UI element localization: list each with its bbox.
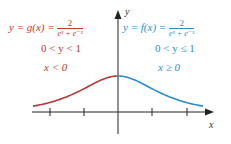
right-fraction-denominator: eˣ + e⁻ˣ — [169, 29, 194, 38]
right-domain: x ≥ 0 — [158, 62, 180, 73]
curve-f — [118, 76, 203, 106]
left-fraction-denominator: eˣ + e⁻ˣ — [57, 29, 82, 38]
left-fraction-numerator: 2 — [57, 19, 82, 29]
left-domain: x < 0 — [44, 62, 67, 73]
right-range: 0 < y ≤ 1 — [155, 43, 195, 54]
curve-g — [33, 76, 118, 106]
chart-root: y = g(x) = 2 eˣ + e⁻ˣ 0 < y < 1 x < 0 y … — [0, 0, 231, 144]
y-axis-arrow-icon — [115, 10, 122, 19]
right-fraction-numerator: 2 — [169, 19, 194, 29]
x-axis-arrow-icon — [205, 109, 214, 116]
right-fraction: 2 eˣ + e⁻ˣ — [169, 19, 194, 38]
left-fraction: 2 eˣ + e⁻ˣ — [57, 19, 82, 38]
left-formula-lhs: y = g(x) = — [9, 21, 55, 33]
left-formula: y = g(x) = 2 eˣ + e⁻ˣ — [9, 19, 83, 38]
x-axis-label: x — [209, 120, 213, 130]
y-axis-label: y — [125, 7, 129, 17]
right-formula-lhs: y = f(x) = — [123, 21, 166, 33]
left-range: 0 < y < 1 — [41, 43, 81, 54]
right-formula: y = f(x) = 2 eˣ + e⁻ˣ — [123, 19, 194, 38]
